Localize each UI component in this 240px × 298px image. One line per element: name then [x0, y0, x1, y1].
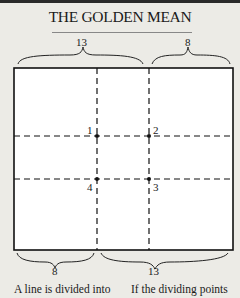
point-label-1: 1 — [87, 124, 93, 136]
point-label-4: 4 — [87, 181, 93, 193]
top-brace-8 — [152, 47, 230, 64]
top-brace-13 — [18, 47, 143, 64]
bottom-label-13: 13 — [148, 265, 159, 277]
top-label-8: 8 — [185, 36, 191, 48]
point-label-2: 2 — [153, 124, 159, 136]
point-1 — [95, 134, 99, 138]
point-2 — [147, 134, 151, 138]
point-label-3: 3 — [153, 181, 159, 193]
golden-rectangle — [14, 68, 233, 250]
bottom-brace-13 — [101, 253, 228, 269]
point-3 — [147, 177, 151, 181]
golden-mean-diagram — [0, 0, 240, 298]
caption-right: If the dividing points — [131, 283, 228, 295]
point-4 — [95, 177, 99, 181]
bottom-label-8: 8 — [52, 265, 58, 277]
caption-left: A line is divided into — [14, 283, 110, 295]
top-label-13: 13 — [76, 36, 87, 48]
